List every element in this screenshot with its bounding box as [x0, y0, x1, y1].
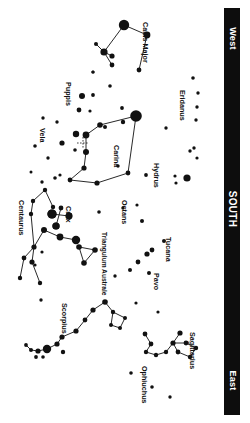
constellation-label-eridanus: Eridanus — [179, 90, 186, 121]
star-dot — [123, 316, 127, 320]
star-dot — [168, 395, 171, 398]
star-dot — [68, 178, 73, 183]
star-dot — [31, 199, 35, 203]
star-dot — [54, 341, 59, 346]
star-dot — [83, 318, 88, 323]
constellation-label-octans: Octans — [121, 200, 128, 224]
constellation-line — [33, 190, 45, 201]
star-dot — [47, 209, 56, 218]
star-dot — [40, 180, 43, 183]
star-dot — [35, 348, 40, 353]
star-dot — [194, 118, 197, 121]
star-dot — [136, 260, 141, 265]
star-dot — [81, 165, 86, 170]
constellation-line — [31, 214, 34, 247]
star-dot — [73, 131, 79, 137]
star-dot — [173, 174, 176, 177]
star-dot — [144, 350, 148, 354]
constellation-markers-group — [77, 137, 89, 149]
star-dot — [38, 281, 42, 285]
constellation-line — [20, 258, 24, 278]
star-dot — [174, 181, 177, 184]
star-dot — [79, 93, 85, 99]
star-dot — [195, 156, 198, 159]
star-dot — [29, 212, 33, 216]
horizon-label-east: East — [228, 351, 237, 411]
star-dot — [121, 120, 125, 124]
star-dot — [94, 42, 98, 46]
constellation-label-carina: Carina — [113, 145, 120, 167]
star-dot — [126, 171, 131, 176]
star-dot — [191, 76, 195, 80]
horizon-label-south: SOUTH — [227, 179, 237, 239]
star-dot — [29, 259, 34, 264]
star-dot — [73, 328, 78, 333]
field-star-dot — [164, 126, 167, 129]
field-star-dot — [97, 210, 101, 214]
star-dot — [150, 248, 155, 253]
star-dot — [149, 342, 154, 347]
constellation-label-puppis: Puppis — [65, 82, 72, 106]
star-dot — [59, 140, 64, 145]
constellation-line — [128, 116, 136, 173]
star-dot — [41, 227, 47, 233]
star-dots-group — [18, 20, 200, 399]
constellation-line — [45, 190, 53, 207]
constellation-label-sagittarius: Sagittarius — [189, 332, 196, 369]
star-dot — [53, 176, 57, 180]
star-dot — [77, 108, 82, 113]
star-dot — [196, 91, 199, 94]
star-dot — [59, 334, 64, 339]
constellation-label-pavo: Pavo — [153, 273, 160, 290]
star-dot — [120, 106, 124, 110]
constellation-label-vela: Vela — [39, 128, 46, 142]
star-dot — [140, 219, 144, 223]
constellation-label-canis-major: Canis Major — [142, 22, 149, 63]
star-dot — [72, 236, 80, 244]
constellation-line — [97, 173, 128, 183]
star-dot — [46, 156, 49, 159]
field-star-dot — [134, 301, 137, 304]
star-dot — [59, 206, 64, 211]
star-dot — [94, 180, 99, 185]
constellation-line — [70, 180, 97, 183]
star-dot — [177, 330, 182, 335]
star-dot — [110, 63, 115, 68]
star-dot — [91, 93, 95, 97]
star-dot — [183, 174, 190, 181]
star-dot — [24, 343, 28, 347]
star-dot — [137, 68, 142, 73]
star-dot — [58, 173, 61, 176]
star-dot — [41, 116, 44, 119]
star-dot — [111, 310, 115, 314]
star-dot — [40, 250, 43, 253]
star-dot — [81, 260, 87, 266]
star-dot — [31, 244, 36, 249]
star-dot — [118, 326, 122, 330]
star-dot — [30, 171, 33, 174]
star-dot — [164, 350, 168, 354]
star-dot — [55, 120, 58, 123]
star-dot — [103, 125, 107, 129]
star-dot — [83, 132, 90, 139]
star-dot — [154, 353, 158, 357]
star-dot — [18, 276, 22, 280]
star-dot — [90, 307, 95, 312]
star-dot — [143, 332, 148, 337]
field-star-dot — [91, 70, 94, 73]
star-dot — [29, 348, 33, 352]
star-dot — [51, 205, 55, 209]
star-dot — [52, 222, 59, 229]
star-dot — [135, 203, 138, 206]
star-dot — [108, 84, 112, 88]
star-dot — [130, 110, 142, 122]
star-dot — [57, 234, 64, 241]
star-dot — [102, 299, 108, 305]
star-dot — [33, 144, 37, 148]
star-dot — [41, 355, 45, 359]
star-dot — [195, 105, 198, 108]
star-dot — [83, 149, 89, 155]
star-dot — [76, 244, 82, 250]
field-star-dot — [73, 148, 77, 152]
field-star-dot — [156, 310, 159, 313]
